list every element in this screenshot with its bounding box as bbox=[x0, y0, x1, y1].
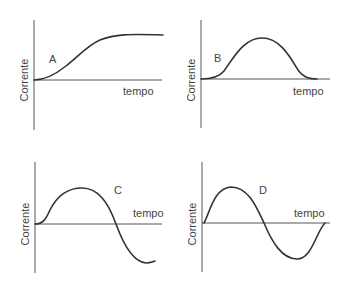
panel-letter: A bbox=[49, 53, 57, 65]
panel-b: B tempo Corrente bbox=[185, 20, 330, 128]
panel-letter: D bbox=[259, 184, 267, 196]
y-axis-label: Corrente bbox=[186, 203, 198, 246]
x-axis-label: tempo bbox=[293, 85, 324, 97]
panel-letter: C bbox=[114, 184, 122, 196]
panel-a: A tempo Corrente bbox=[18, 20, 163, 130]
panel-c: C tempo Corrente bbox=[19, 162, 164, 273]
x-axis-label: tempo bbox=[123, 85, 154, 97]
curve-c bbox=[35, 188, 155, 263]
panel-letter: B bbox=[214, 52, 221, 64]
y-axis-label: Corrente bbox=[18, 59, 30, 102]
x-axis-label: tempo bbox=[294, 207, 325, 219]
y-axis-label: Corrente bbox=[19, 203, 31, 246]
y-axis-label: Corrente bbox=[185, 59, 197, 102]
x-axis-label: tempo bbox=[133, 207, 164, 219]
figure-canvas: A tempo Corrente B tempo Corrente C temp… bbox=[0, 0, 342, 285]
panel-d: D tempo Corrente bbox=[186, 162, 330, 272]
